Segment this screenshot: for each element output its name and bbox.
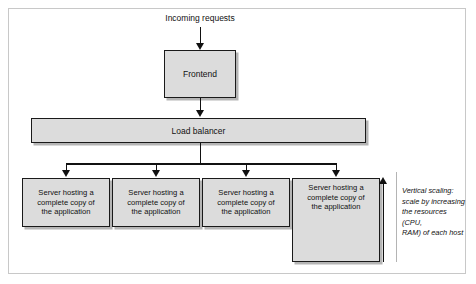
branch-arrowhead-icon-1 xyxy=(62,170,70,177)
architecture-diagram: Incoming requests Frontend Load balancer… xyxy=(0,0,476,284)
incoming-requests-label: Incoming requests xyxy=(150,13,250,23)
annotation-divider xyxy=(396,172,397,262)
server-node-label: Server hosting a complete copy of the ap… xyxy=(307,183,364,212)
incoming-requests-connector xyxy=(200,27,202,44)
frontend-to-load-balancer-arrowhead-icon xyxy=(196,110,204,117)
vertical-scaling-annotation: Vertical scaling: scale by increasing th… xyxy=(402,186,466,239)
frontend-node-label: Frontend xyxy=(183,69,217,79)
load-balancer-stem-connector xyxy=(200,143,202,164)
load-balancer-node-label: Load balancer xyxy=(172,126,226,136)
branch-arrowhead-icon-2 xyxy=(152,170,160,177)
vertical-scaling-arrow-shaft xyxy=(383,183,385,262)
server-node-label: Server hosting a complete copy of the ap… xyxy=(217,188,274,217)
branch-arrowhead-icon-3 xyxy=(242,170,250,177)
server-node: Server hosting a complete copy of the ap… xyxy=(202,178,290,227)
server-node-label: Server hosting a complete copy of the ap… xyxy=(37,188,94,217)
frontend-node: Frontend xyxy=(164,50,236,98)
incoming-requests-arrowhead-icon xyxy=(196,43,204,50)
vertical-scaling-arrowhead-icon xyxy=(379,177,387,184)
branch-arrowhead-icon-4 xyxy=(332,170,340,177)
load-balancer-node: Load balancer xyxy=(31,118,366,143)
server-node-label: Server hosting a complete copy of the ap… xyxy=(127,188,184,217)
server-node: Server hosting a complete copy of the ap… xyxy=(112,178,200,227)
server-node: Server hosting a complete copy of the ap… xyxy=(22,178,110,227)
server-node-scaled: Server hosting a complete copy of the ap… xyxy=(292,178,380,262)
distribution-bus-connector xyxy=(66,163,337,165)
